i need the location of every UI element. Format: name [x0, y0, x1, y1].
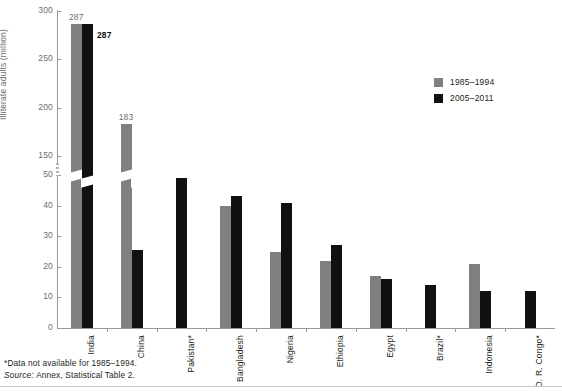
- x-axis-tick: [256, 328, 257, 332]
- x-axis-label: Egypt: [385, 335, 395, 358]
- legend-item: 1985–1994: [434, 74, 494, 90]
- chart-figure: Illiterate adults (million) 010203040501…: [0, 0, 562, 392]
- y-tick-label: 150: [27, 150, 53, 160]
- bar: [176, 178, 187, 328]
- x-axis-label: D. R. Congo*: [534, 335, 544, 387]
- y-tick-mark: [57, 328, 61, 329]
- bar: [525, 291, 536, 328]
- x-axis-tick: [505, 328, 506, 332]
- y-tick-label: 30: [27, 230, 53, 240]
- x-axis-tick: [157, 328, 158, 332]
- footnote-note: *Data not available for 1985–1994.: [4, 358, 137, 370]
- bar-value-label: 287: [69, 12, 84, 22]
- bar: [370, 276, 381, 328]
- y-tick-label: 200: [27, 102, 53, 112]
- y-tick-label: 250: [27, 53, 53, 63]
- bar: [480, 291, 491, 328]
- x-axis-label: Indonesia: [484, 335, 494, 374]
- bar: [82, 24, 93, 328]
- x-axis-tick: [306, 328, 307, 332]
- x-axis-label: Brazil*: [435, 335, 445, 361]
- bar: [270, 252, 281, 329]
- x-axis-label: Ethiopia: [335, 335, 345, 367]
- bar: [71, 24, 82, 328]
- bar: [320, 261, 331, 328]
- bar: [469, 264, 480, 328]
- chart-footnotes: *Data not available for 1985–1994. Sourc…: [4, 358, 137, 381]
- legend-swatch-icon: [434, 78, 443, 87]
- bar-value-label: 287: [97, 30, 112, 40]
- plot-area: 287287183: [57, 11, 554, 328]
- bar: [331, 245, 342, 328]
- bottom-divider: [0, 386, 562, 387]
- bar: [220, 206, 231, 328]
- source-prefix: Source:: [4, 370, 34, 380]
- bar-value-label: 183: [119, 112, 134, 122]
- bar: [425, 285, 436, 328]
- chart-legend: 1985–1994 2005–2011: [434, 74, 494, 106]
- legend-swatch-icon: [434, 94, 443, 103]
- y-axis-title: Illiterate adults (million): [0, 0, 8, 120]
- footnote-source: Source: Annex, Statistical Table 2.: [4, 370, 137, 382]
- legend-label: 1985–1994: [450, 77, 494, 87]
- y-tick-label: 300: [27, 5, 53, 15]
- legend-label: 2005–2011: [450, 93, 494, 103]
- bar: [132, 250, 143, 328]
- y-tick-label: 50: [27, 169, 53, 179]
- x-axis-label: China: [136, 335, 146, 358]
- x-axis-label: India: [86, 335, 96, 354]
- source-text: Annex, Statistical Table 2.: [36, 370, 135, 380]
- y-tick-label: 0: [27, 322, 53, 332]
- x-axis-label: Nigeria: [285, 335, 295, 363]
- x-axis-tick: [455, 328, 456, 332]
- x-axis-tick: [107, 328, 108, 332]
- x-axis-label: Pakistan*: [186, 335, 196, 373]
- y-tick-label: 10: [27, 291, 53, 301]
- x-axis-tick: [206, 328, 207, 332]
- y-tick-label: 20: [27, 261, 53, 271]
- x-axis-tick: [406, 328, 407, 332]
- x-axis-tick: [356, 328, 357, 332]
- bar: [231, 196, 242, 328]
- bar: [381, 279, 392, 328]
- axis-break-notch: [81, 175, 94, 188]
- x-axis-label: Bangladesh: [235, 335, 245, 382]
- y-tick-label: 40: [27, 200, 53, 210]
- bar: [121, 124, 132, 328]
- bar: [281, 203, 292, 328]
- legend-item: 2005–2011: [434, 90, 494, 106]
